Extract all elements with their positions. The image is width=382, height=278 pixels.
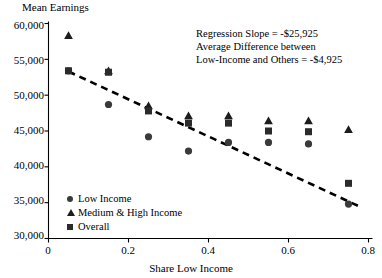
data-point-circle	[225, 139, 232, 146]
data-point-square	[265, 128, 272, 135]
data-point-triangle	[304, 117, 313, 125]
data-point-square	[305, 128, 312, 135]
data-point-square	[65, 67, 72, 74]
data-point-circle	[305, 140, 312, 147]
regression-trendline	[69, 72, 361, 207]
data-point-square	[345, 180, 352, 187]
data-point-triangle	[64, 31, 73, 39]
data-point-square	[145, 107, 152, 114]
data-point-circle	[265, 139, 272, 146]
data-point-circle	[345, 201, 352, 208]
data-point-square	[185, 120, 192, 127]
data-point-square	[225, 120, 232, 127]
scatter-chart: Mean Earnings 60,000 55,000 50,000 45,00…	[0, 0, 382, 278]
data-point-triangle	[224, 112, 233, 120]
data-point-triangle	[184, 112, 193, 120]
data-point-triangle	[264, 117, 273, 125]
data-point-circle	[145, 133, 152, 140]
data-point-circle	[185, 147, 192, 154]
plot-area	[0, 0, 382, 278]
data-point-triangle	[344, 125, 353, 133]
data-point-square	[105, 69, 112, 76]
data-point-circle	[105, 101, 112, 108]
